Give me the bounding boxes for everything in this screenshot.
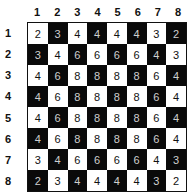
board-cell: 6 [127, 149, 147, 170]
board-cell: 6 [48, 128, 68, 149]
board-cell: 8 [87, 107, 107, 128]
board-cell: 2 [166, 23, 186, 44]
board-cell: 6 [147, 128, 167, 149]
board-cell: 6 [107, 149, 127, 170]
board-cell: 8 [107, 65, 127, 86]
board-cell: 3 [147, 170, 167, 191]
board-cell: 6 [48, 65, 68, 86]
board-cell: 8 [107, 86, 127, 107]
column-labels: 12345678 [27, 4, 188, 20]
board-cell: 3 [147, 23, 167, 44]
board-cell: 6 [147, 107, 167, 128]
board-cell: 2 [166, 170, 186, 191]
board-cell: 4 [166, 86, 186, 107]
board-cell: 4 [127, 23, 147, 44]
board-cell: 4 [28, 65, 48, 86]
board-cell: 4 [166, 65, 186, 86]
board-cell: 3 [28, 44, 48, 65]
board-cell: 6 [127, 44, 147, 65]
board-cell: 4 [48, 44, 68, 65]
row-label: 2 [0, 43, 16, 64]
column-label: 7 [148, 4, 168, 20]
board-cell: 3 [28, 149, 48, 170]
board-cell: 6 [68, 149, 88, 170]
board-cell: 4 [166, 128, 186, 149]
chessboard-grid: 2344443234666643468888644688886446888864… [27, 22, 187, 192]
row-label: 7 [0, 150, 16, 171]
column-label: 2 [47, 4, 67, 20]
board-cell: 6 [147, 86, 167, 107]
board-cell: 8 [87, 128, 107, 149]
board-cell: 4 [87, 23, 107, 44]
board-cell: 8 [107, 107, 127, 128]
board-cell: 6 [48, 107, 68, 128]
row-label: 3 [0, 65, 16, 86]
column-label: 1 [27, 4, 47, 20]
board-cell: 6 [68, 44, 88, 65]
board-cell: 4 [107, 23, 127, 44]
column-label: 8 [168, 4, 188, 20]
board-cell: 3 [166, 149, 186, 170]
board-cell: 4 [28, 128, 48, 149]
row-label: 1 [0, 22, 16, 43]
board-cell: 8 [127, 128, 147, 149]
row-labels: 12345678 [0, 22, 16, 192]
board-cell: 4 [87, 170, 107, 191]
board-cell: 8 [68, 107, 88, 128]
board-cell: 6 [147, 65, 167, 86]
board-cell: 4 [68, 23, 88, 44]
column-label: 3 [67, 4, 87, 20]
board-cell: 6 [107, 44, 127, 65]
board-cell: 3 [166, 44, 186, 65]
board-cell: 2 [28, 23, 48, 44]
board-cell: 2 [28, 170, 48, 191]
board-cell: 8 [68, 128, 88, 149]
board-cell: 4 [147, 149, 167, 170]
board-cell: 8 [127, 65, 147, 86]
board-cell: 6 [87, 44, 107, 65]
board-cell: 4 [48, 149, 68, 170]
row-label: 4 [0, 86, 16, 107]
board-cell: 3 [48, 23, 68, 44]
row-label: 6 [0, 128, 16, 149]
row-label: 5 [0, 107, 16, 128]
board-cell: 6 [87, 149, 107, 170]
board-cell: 8 [87, 65, 107, 86]
board-cell: 4 [127, 170, 147, 191]
board-cell: 4 [28, 86, 48, 107]
board-cell: 4 [68, 170, 88, 191]
board-cell: 8 [68, 86, 88, 107]
column-label: 6 [128, 4, 148, 20]
board-cell: 4 [107, 170, 127, 191]
board-cell: 3 [48, 170, 68, 191]
board-cell: 8 [107, 128, 127, 149]
board-cell: 4 [166, 107, 186, 128]
column-label: 5 [108, 4, 128, 20]
board-cell: 8 [68, 65, 88, 86]
board-cell: 4 [28, 107, 48, 128]
board-cell: 4 [147, 44, 167, 65]
column-label: 4 [87, 4, 107, 20]
board-cell: 6 [48, 86, 68, 107]
board-cell: 8 [127, 107, 147, 128]
board-cell: 8 [127, 86, 147, 107]
row-label: 8 [0, 171, 16, 192]
board-cell: 8 [87, 86, 107, 107]
